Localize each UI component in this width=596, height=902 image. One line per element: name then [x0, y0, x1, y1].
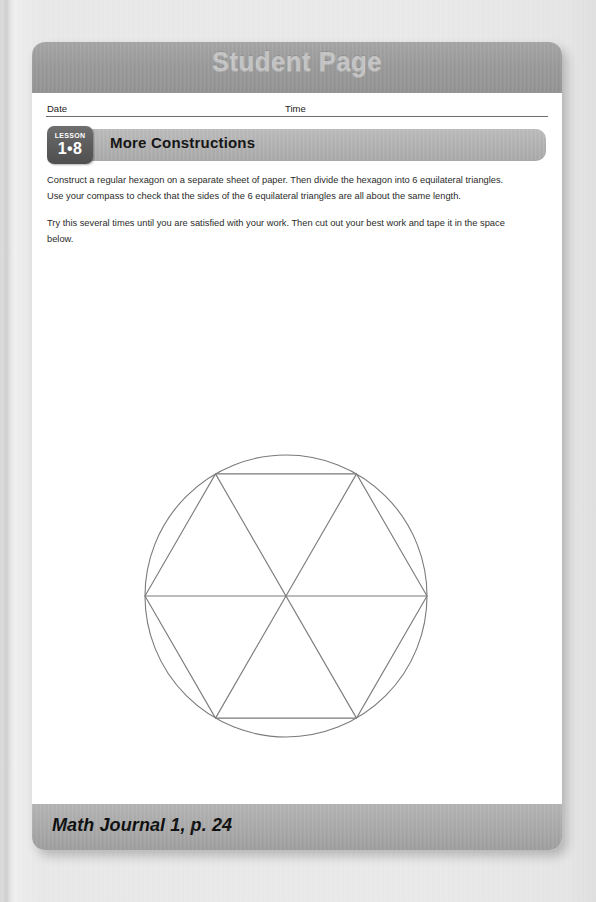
student-page-card: Student Page Date Time LESSON 1•8 More C…	[32, 42, 562, 850]
lesson-badge-number: 1•8	[47, 140, 93, 158]
hexagon-diagram-svg	[136, 446, 436, 746]
page-title: Student Page	[53, 46, 541, 78]
worksheet-body: Construct a regular hexagon on a separat…	[32, 166, 562, 804]
instruction-paragraph-2: Try this several times until you are sat…	[47, 216, 515, 247]
date-label: Date	[47, 103, 67, 114]
lesson-title: More Constructions	[110, 134, 255, 151]
date-time-row: Date Time	[46, 93, 548, 117]
lesson-badge-word: LESSON	[47, 126, 93, 140]
instruction-paragraph-1: Construct a regular hexagon on a separat…	[47, 173, 515, 204]
lesson-title-row: LESSON 1•8 More Constructions	[46, 126, 546, 166]
lesson-number-badge: LESSON 1•8	[47, 126, 93, 164]
student-page-footer: Math Journal 1, p. 24	[32, 804, 562, 850]
student-page-header: Student Page	[32, 42, 562, 93]
journal-reference: Math Journal 1, p. 24	[52, 815, 232, 836]
time-label: Time	[285, 103, 306, 114]
hexagon-diagonals	[145, 474, 427, 718]
hexagon-in-circle-diagram	[136, 446, 436, 746]
